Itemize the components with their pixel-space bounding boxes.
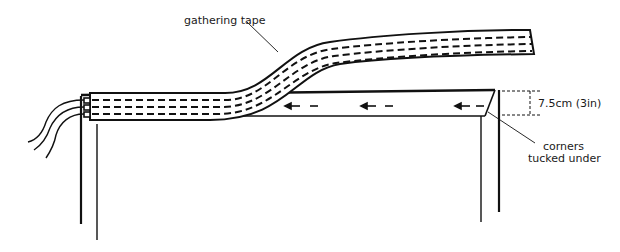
label-corners-line2: tucked under <box>528 152 601 165</box>
label-gathering-tape: gathering tape <box>184 14 266 27</box>
measurement-bracket <box>502 91 540 115</box>
gathering-cords <box>28 100 84 158</box>
label-measurement: 7.5cm (3in) <box>538 97 601 110</box>
stitch-arrows <box>285 103 484 109</box>
curtain-heading-diagram: gathering tape 7.5cm (3in) corners tucke… <box>0 0 620 252</box>
